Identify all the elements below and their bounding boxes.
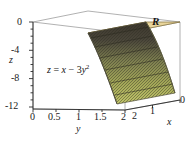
x-tick-label-2: 2 bbox=[132, 111, 137, 121]
x-axis-label: x bbox=[167, 117, 171, 127]
surface-equation-label: z = x − 3y2 bbox=[47, 64, 89, 75]
z-tick-label-0: 0 bbox=[17, 17, 22, 27]
surface-plot-figure: 0 -4 -8 -12 0 0.5 1 1.5 2 2 1 0 z y x z … bbox=[0, 0, 194, 141]
y-tick-label-1-5: 1.5 bbox=[94, 112, 107, 122]
y-axis-label: y bbox=[76, 124, 80, 134]
z-axis-label: z bbox=[9, 55, 13, 65]
x-tick-label-0: 0 bbox=[180, 95, 185, 105]
z-tick-label-neg12: -12 bbox=[5, 101, 18, 111]
equation-minus: − 3 bbox=[66, 64, 82, 75]
z-tick-label-neg8: -8 bbox=[11, 73, 19, 83]
y-tick-label-0-5: 0.5 bbox=[48, 112, 61, 122]
y-tick-label-1: 1 bbox=[76, 112, 81, 122]
y-tick-label-0: 0 bbox=[30, 112, 35, 122]
y-tick-label-2: 2 bbox=[121, 112, 126, 122]
equation-exponent: 2 bbox=[86, 63, 89, 70]
z-axis bbox=[29, 22, 33, 109]
surface-sheet bbox=[88, 22, 175, 104]
region-r-label: R bbox=[152, 16, 159, 27]
equation-eq: = bbox=[51, 64, 62, 75]
x-tick-label-1: 1 bbox=[150, 106, 155, 116]
